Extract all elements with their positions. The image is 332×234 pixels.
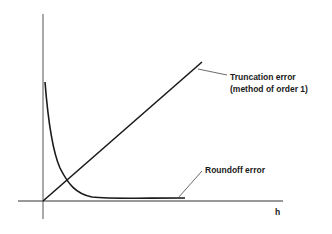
error-vs-step-size-chart: Truncation error (method of order 1) Rou… [0,0,332,234]
truncation-leader-line [198,69,227,75]
truncation-label-line1: Truncation error [230,72,296,82]
x-axis-label: h [275,207,280,217]
roundoff-leader-line [178,171,202,198]
roundoff-label: Roundoff error [205,165,266,175]
truncation-label-line2: (method of order 1) [230,84,308,94]
